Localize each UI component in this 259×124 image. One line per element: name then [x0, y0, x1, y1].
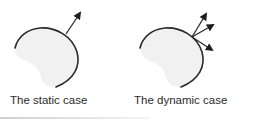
- caption-dynamic-case: The dynamic case: [134, 94, 227, 106]
- static-blob-fill: [15, 28, 78, 87]
- static-normal-arrow: [66, 13, 80, 34]
- dynamic-case-figure: [140, 14, 213, 87]
- bottom-divider: [0, 117, 150, 119]
- caption-static-case: The static case: [10, 94, 87, 106]
- static-case-figure: [15, 13, 80, 87]
